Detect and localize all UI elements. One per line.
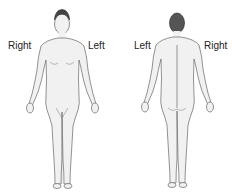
back-right-label: Right <box>204 40 227 51</box>
front-body-figure <box>27 10 99 189</box>
back-left-label: Left <box>134 40 151 51</box>
front-right-foot <box>53 184 61 189</box>
back-body-figure <box>142 13 214 188</box>
back-left-foot <box>168 183 176 188</box>
back-torso <box>144 37 211 183</box>
front-left-label: Left <box>88 40 105 51</box>
front-right-label: Right <box>8 40 31 51</box>
body-diagram <box>0 0 232 196</box>
back-left-hand <box>142 102 149 112</box>
front-right-hand <box>27 103 34 113</box>
back-right-hand <box>207 102 214 112</box>
back-head <box>170 13 185 33</box>
front-head <box>55 14 70 34</box>
back-right-foot <box>179 183 187 188</box>
front-torso <box>29 38 96 184</box>
front-left-foot <box>64 184 72 189</box>
front-left-hand <box>92 103 99 113</box>
